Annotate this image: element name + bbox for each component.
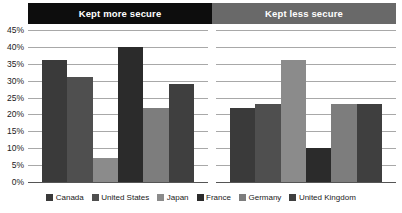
bar-group-kept-more-secure (28, 30, 208, 182)
bar-chart: Kept more secure Kept less secure 45%40%… (0, 0, 402, 213)
legend-item[interactable]: Canada (46, 193, 84, 202)
group-banner-kept-less-secure: Kept less secure (212, 3, 396, 24)
bar (42, 60, 67, 182)
axis-baseline (216, 182, 396, 183)
y-axis-tick: 5% (12, 160, 24, 170)
panel-kept-less-secure (216, 30, 396, 182)
y-axis-tick: 45% (7, 25, 24, 35)
y-axis-tick: 35% (7, 59, 24, 69)
bar (230, 108, 255, 182)
y-axis-tick: 15% (7, 126, 24, 136)
bar (169, 84, 194, 182)
bar-group-kept-less-secure (216, 30, 396, 182)
group-banner-kept-more-secure: Kept more secure (28, 3, 212, 24)
legend-item[interactable]: Germany (239, 193, 281, 202)
panel-kept-more-secure (28, 30, 208, 182)
y-axis-tick: 25% (7, 93, 24, 103)
bar (306, 148, 331, 182)
y-axis-tick: 10% (7, 143, 24, 153)
bar (143, 108, 168, 182)
legend-swatch-icon (239, 194, 246, 201)
legend-swatch-icon (46, 194, 53, 201)
legend-swatch-icon (197, 194, 204, 201)
legend-item[interactable]: Japan (157, 193, 188, 202)
axis-baseline (28, 182, 208, 183)
bar (357, 104, 382, 182)
bar (67, 77, 92, 182)
chart-legend: CanadaUnited StatesJapanFranceGermanyUni… (0, 193, 402, 202)
legend-swatch-icon (92, 194, 99, 201)
legend-swatch-icon (157, 194, 164, 201)
bar (93, 158, 118, 182)
y-axis-tick: 0% (12, 177, 24, 187)
legend-item[interactable]: United Kingdom (289, 193, 355, 202)
legend-swatch-icon (289, 194, 296, 201)
bar (118, 47, 143, 182)
y-axis-tick: 40% (7, 42, 24, 52)
legend-item-label: Germany (248, 193, 281, 202)
legend-item-label: United Kingdom (299, 193, 356, 202)
legend-item-label: France (206, 193, 231, 202)
legend-item-label: United States (101, 193, 149, 202)
y-axis-tick: 20% (7, 109, 24, 119)
legend-item-label: Japan (167, 193, 189, 202)
bar (281, 60, 306, 182)
plot-area (28, 30, 396, 182)
bar (331, 104, 356, 182)
legend-item[interactable]: France (197, 193, 231, 202)
bar (255, 104, 280, 182)
group-banner-row: Kept more secure Kept less secure (28, 3, 396, 24)
legend-item-label: Canada (56, 193, 84, 202)
y-axis: 45%40%35%30%25%20%15%10%5%0% (0, 30, 26, 182)
legend-item[interactable]: United States (92, 193, 150, 202)
y-axis-tick: 30% (7, 76, 24, 86)
